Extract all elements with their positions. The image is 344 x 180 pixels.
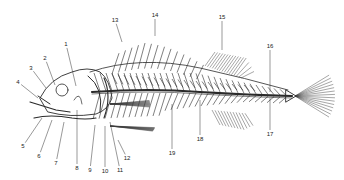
dorsal-fin-ray [207,53,217,67]
label-9: 9 [88,167,91,173]
dorsal-fin-ray [205,52,215,66]
dorsal-fin-ray [222,56,233,72]
dorsal-spine [158,47,165,69]
dorsal-spine [112,53,119,74]
neural-spine [172,73,178,91]
neural-spine [226,79,232,92]
caudal-fin-ray [295,75,329,96]
haemal-spine [189,93,196,107]
haemal-spine [207,94,214,106]
neural-spine [166,73,172,91]
label-4: 4 [16,79,19,85]
haemal-spine [225,95,232,104]
haemal-spine [219,94,226,104]
label-8: 8 [75,165,78,171]
haemal-spine [273,97,280,103]
pterygiophore [202,82,207,89]
neural-spine [274,88,280,95]
neural-spine [160,73,166,91]
label-18: 18 [197,136,204,142]
neural-spine [124,73,130,91]
leader-line-9 [90,125,95,166]
neural-spine [268,87,274,94]
dorsal-fin-ray [239,67,252,77]
pterygiophore [160,78,165,86]
dorsal-spine [177,54,184,72]
pterygiophore [154,78,159,87]
label-2: 2 [43,55,46,61]
dorsal-spine [171,52,178,72]
dorsal-spine [132,45,139,70]
neural-spine [94,73,100,91]
fish-skeleton-diagram: 12345678910111213141516171819 [0,0,344,180]
pterygiophore [250,86,255,91]
rib [93,93,100,119]
dorsal-spine [164,49,171,70]
haemal-spine [183,93,190,108]
caudal-fin-ray [295,78,331,96]
rib [153,93,160,116]
leader-line-4 [21,84,38,98]
neural-spine [220,78,226,92]
dorsal-fin-ray [217,55,228,71]
pterygiophore [196,81,201,88]
label-13: 13 [112,17,119,23]
neural-spine [238,81,244,93]
pterygiophore [130,76,135,85]
haemal-spine [177,93,184,109]
pterygiophore [136,76,141,85]
orbit [56,84,68,96]
leader-line-2 [46,62,55,85]
leader-line-12 [118,140,125,154]
pterygiophore [112,74,117,84]
dorsal-fin-ray [231,58,243,75]
dorsal-fin-ray [212,54,223,69]
leader-line-1 [67,48,76,86]
caudal-fin-ray [295,96,329,117]
haemal-spine [195,93,202,106]
neural-spine [130,73,136,91]
neural-spine [154,73,160,91]
neural-spine [184,73,190,91]
label-14: 14 [152,12,159,18]
rib [159,93,166,116]
leader-line-5 [25,118,42,143]
dorsal-spine [119,50,126,72]
haemal-spine [213,94,220,105]
pterygiophore [142,77,147,86]
dorsal-spine [125,48,132,71]
label-12: 12 [124,155,131,161]
label-19: 19 [169,150,176,156]
haemal-spine [279,97,286,103]
leader-line-6 [40,120,52,152]
label-16: 16 [267,43,274,49]
label-17: 17 [267,131,274,137]
caudal-fin-ray [295,96,331,114]
label-11: 11 [117,167,123,173]
dorsal-fin-ray [227,57,239,74]
label-10: 10 [102,168,109,174]
neural-spine [214,77,220,92]
vertebral-column [92,90,292,96]
dorsal-spine [151,45,158,68]
rib [117,93,124,118]
caudal-fin-ray [295,84,333,96]
leader-line-3 [33,71,46,88]
leader-line-13 [116,24,122,42]
neural-spine [256,85,262,94]
neural-spine [262,86,268,94]
dorsal-fin-ray [219,55,230,71]
label-7: 7 [54,160,57,166]
haemal-spine [165,93,172,111]
label-1: 1 [64,41,67,47]
pterygiophore [118,75,123,85]
neural-spine [280,89,286,95]
pterygiophore [238,85,243,91]
pterygiophore [190,81,195,88]
leader-line-7 [57,122,64,159]
dorsal-fin-ray [224,56,236,72]
label-6: 6 [37,153,40,159]
label-3: 3 [29,65,32,71]
dorsal-fin-ray [229,57,241,74]
dorsal-fin-ray [215,54,226,69]
